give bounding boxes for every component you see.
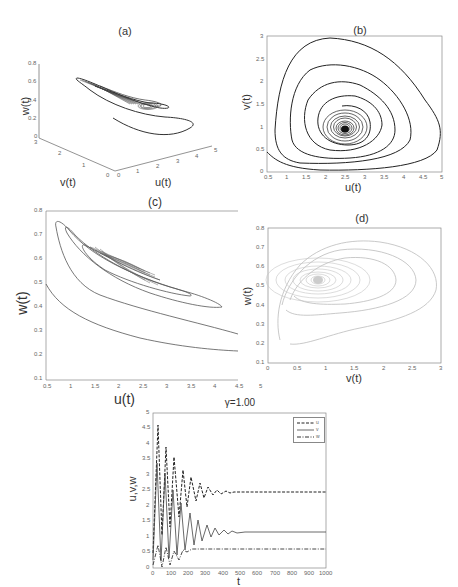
e-y-label: u,v,w: [126, 477, 138, 502]
b-y-tick: 1: [260, 124, 263, 130]
a-u-tick: 4: [195, 153, 198, 159]
d-y-tick: 0.6: [256, 263, 264, 269]
e-x-tick: 400: [218, 570, 228, 576]
c-x-tick: 4: [213, 383, 216, 389]
c-y-tick: 0.6: [34, 255, 42, 261]
d-x-tick: 0.5: [293, 365, 301, 371]
d-x-tick: 1.5: [350, 365, 358, 371]
a-u-label: u(t): [155, 176, 172, 188]
c-y-tick: 0.5: [34, 279, 42, 285]
e-y-tick: 4: [146, 440, 149, 446]
d-x-tick: 2.5: [408, 365, 416, 371]
b-x-tick: 3: [363, 174, 366, 180]
b-x-tick: 0.5: [264, 174, 272, 180]
b-y-tick: 3: [260, 33, 263, 39]
c-x-tick: 1: [69, 383, 72, 389]
c-x-tick: 1.5: [91, 383, 99, 389]
panel-e: γ=1.00 u v w 5 4.5 4 3.5 3 2.5 2 1.5 1 0…: [100, 395, 350, 584]
c-x-tick: 0.5: [43, 383, 51, 389]
panel-c: (c) 0.8 0.7 0.6 0.5 0.4 0.3 0.2 0.1 0.5 …: [0, 195, 260, 405]
e-y-tick: 3: [146, 471, 149, 477]
b-x-tick: 1: [285, 174, 288, 180]
c-x-tick: 3.5: [187, 383, 195, 389]
e-y-tick: 4.5: [142, 424, 150, 430]
c-x-tick: 2.5: [139, 383, 147, 389]
panel-c-plot: [0, 195, 260, 405]
d-y-tick: 0.3: [256, 321, 264, 327]
b-x-tick: 2: [324, 174, 327, 180]
e-y-tick: 2.5: [142, 486, 150, 492]
d-y-label: w(t): [241, 287, 253, 305]
d-y-tick: 0.5: [256, 282, 264, 288]
e-x-tick: 200: [183, 570, 193, 576]
a-v-tick: 0: [106, 172, 109, 178]
e-y-tick: 5: [146, 409, 149, 415]
legend: u v w: [293, 417, 325, 443]
a-z-tick: 0.6: [28, 78, 36, 84]
e-y-tick: 0.5: [142, 548, 150, 554]
panel-b-plot: [230, 0, 458, 200]
b-x-tick: 5: [440, 174, 443, 180]
panel-a: (a) 0.8 0.6 0.4 0.2 0 3 2 1 0 0 1 2 3 4 …: [0, 0, 230, 200]
d-y-tick: 0.8: [256, 225, 264, 231]
b-y-label: v(t): [240, 94, 252, 110]
b-y-tick: 2.5: [256, 56, 264, 62]
a-z-label: w(t): [19, 97, 31, 115]
c-y-tick: 0.1: [34, 375, 42, 381]
a-v-tick: 1: [82, 162, 85, 168]
c-y-tick: 0.4: [34, 303, 42, 309]
d-y-tick: 0.7: [256, 244, 264, 250]
b-y-tick: 1.5: [256, 101, 264, 107]
d-x-tick: 1: [324, 365, 327, 371]
e-y-tick: 2: [146, 502, 149, 508]
b-y-tick: 2: [260, 78, 263, 84]
a-u-tick: 1: [136, 168, 139, 174]
e-x-tick: 600: [252, 570, 262, 576]
a-v-tick: 2: [58, 150, 61, 156]
b-x-tick: 4: [402, 174, 405, 180]
d-x-label: v(t): [346, 372, 362, 384]
c-x-tick: 3: [165, 383, 168, 389]
panel-b: (b) 3 2.5 2 1.5 1 0.5 0 0.5 1 1.5 2 2.5 …: [230, 0, 458, 200]
a-v-label: v(t): [60, 176, 76, 188]
b-x-tick: 4.5: [419, 174, 427, 180]
e-x-tick: 0: [151, 570, 154, 576]
legend-u: u: [316, 419, 319, 425]
e-y-tick: 1: [146, 533, 149, 539]
b-y-tick: 0.5: [256, 146, 264, 152]
e-x-tick: 300: [200, 570, 210, 576]
b-y-tick: 0: [260, 168, 263, 174]
e-x-tick: 1000: [319, 570, 332, 576]
a-u-tick: 2: [156, 163, 159, 169]
e-x-tick: 100: [166, 570, 176, 576]
b-x-tick: 1.5: [302, 174, 310, 180]
d-x-tick: 3: [439, 365, 442, 371]
e-x-tick: 700: [270, 570, 280, 576]
c-y-tick: 0.7: [34, 231, 42, 237]
c-x-tick: 2: [117, 383, 120, 389]
b-x-label: u(t): [345, 181, 362, 193]
e-x-label: t: [237, 575, 240, 587]
a-u-tick: 3: [176, 158, 179, 164]
d-y-tick: 0.2: [256, 340, 264, 346]
legend-w: w: [316, 433, 320, 439]
a-u-tick: 0: [117, 172, 120, 178]
d-y-tick: 0.4: [256, 302, 264, 308]
d-y-tick: 0.1: [256, 359, 264, 365]
e-x-tick: 800: [287, 570, 297, 576]
d-x-tick: 2: [382, 365, 385, 371]
d-x-tick: 0: [266, 365, 269, 371]
c-y-label: w(t): [14, 291, 30, 314]
legend-v: v: [316, 426, 319, 432]
e-y-tick: 1.5: [142, 517, 150, 523]
c-y-tick: 0.8: [34, 207, 42, 213]
e-y-tick: 3.5: [142, 455, 150, 461]
b-x-tick: 2.5: [341, 174, 349, 180]
e-y-tick: 0: [146, 564, 149, 570]
b-x-tick: 3.5: [380, 174, 388, 180]
e-x-tick: 900: [304, 570, 314, 576]
panel-d: (d) 0.8 0.7 0.6 0.5 0.4 0.3 0.2 0.1 0 0.…: [230, 200, 458, 385]
a-z-tick: 0.8: [28, 60, 36, 66]
a-u-tick: 5: [214, 147, 217, 153]
c-y-tick: 0.2: [34, 351, 42, 357]
